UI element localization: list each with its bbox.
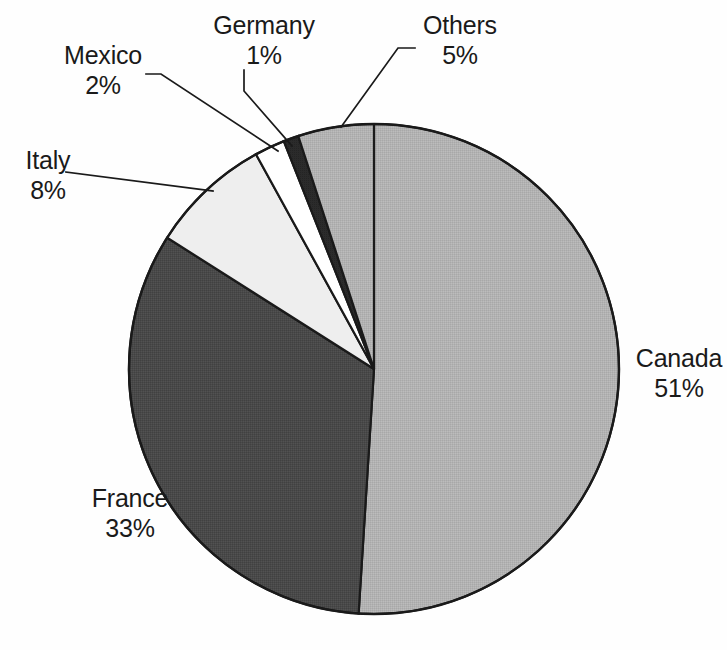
pie-label-mexico-value: 2% <box>48 70 158 100</box>
pie-label-italy-value: 8% <box>8 175 88 205</box>
pie-label-others: Others 5% <box>412 10 508 70</box>
pie-label-italy: Italy 8% <box>8 145 88 205</box>
pie-label-others-name: Others <box>412 10 508 40</box>
pie-label-germany: Germany 1% <box>202 10 326 70</box>
leader-line-germany <box>244 70 292 146</box>
pie-label-italy-name: Italy <box>8 145 88 175</box>
leader-line-mexico <box>146 74 278 151</box>
pie-chart: Mexico 2% Germany 1% Others 5% Italy 8% … <box>0 0 727 650</box>
pie-label-france-name: France <box>72 483 188 513</box>
pie-label-france-value: 33% <box>72 513 188 543</box>
pie-slice-canada[interactable] <box>359 124 619 614</box>
pie-label-mexico: Mexico 2% <box>48 40 158 100</box>
leader-line-others <box>341 48 415 127</box>
pie-label-canada: Canada 51% <box>632 343 726 403</box>
pie-label-others-value: 5% <box>412 40 508 70</box>
pie-label-canada-value: 51% <box>632 373 726 403</box>
pie-label-france: France 33% <box>72 483 188 543</box>
pie-label-germany-value: 1% <box>202 40 326 70</box>
pie-label-mexico-name: Mexico <box>48 40 158 70</box>
leader-line-italy <box>66 172 213 191</box>
pie-label-canada-name: Canada <box>632 343 726 373</box>
pie-label-germany-name: Germany <box>202 10 326 40</box>
pie-slices <box>129 124 619 614</box>
